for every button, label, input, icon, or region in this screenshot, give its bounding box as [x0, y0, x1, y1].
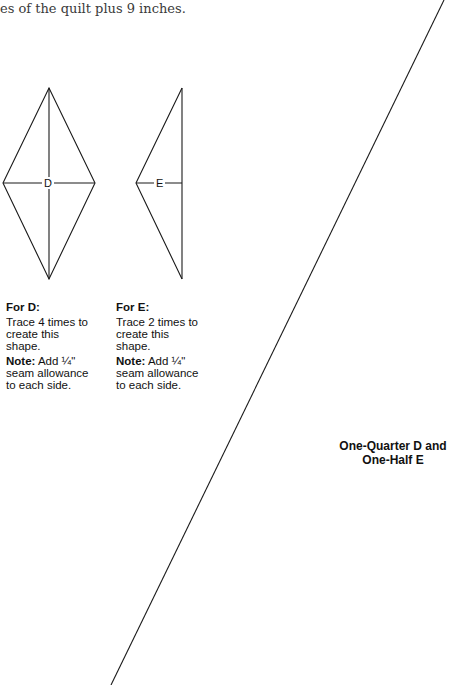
caption-line-1: One-Quarter D and: [328, 439, 458, 453]
diagram-caption: One-Quarter D and One-Half E: [328, 439, 458, 467]
shape-e-label: E: [154, 177, 165, 189]
note-e-allowance: Note: Add ¼" seam allowance to each side…: [116, 355, 206, 391]
note-e: For E: Trace 2 times to create this shap…: [116, 301, 206, 394]
note-e-instruction: Trace 2 times to create this shape.: [116, 316, 206, 352]
note-d-allowance: Note: Add ¼" seam allowance to each side…: [6, 355, 96, 391]
note-d-heading: For D:: [6, 301, 96, 313]
caption-line-2: One-Half E: [328, 453, 458, 467]
shape-d-label: D: [42, 177, 54, 189]
note-d: For D: Trace 4 times to create this shap…: [6, 301, 96, 394]
note-d-label: Note:: [6, 355, 35, 367]
note-e-label: Note:: [116, 355, 145, 367]
note-d-instruction: Trace 4 times to create this shape.: [6, 316, 96, 352]
note-e-heading: For E:: [116, 301, 206, 313]
